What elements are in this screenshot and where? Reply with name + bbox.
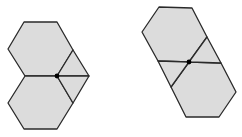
left-figure xyxy=(8,22,89,129)
right-figure xyxy=(142,7,236,117)
center-point-dot xyxy=(55,74,60,79)
diagram-canvas xyxy=(0,0,242,137)
center-point-dot xyxy=(187,60,192,65)
